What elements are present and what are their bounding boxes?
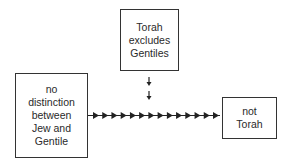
arrowhead-icon	[213, 112, 219, 119]
arrowhead-icon	[167, 112, 173, 119]
arrowhead-icon	[121, 112, 127, 119]
arrowhead-icon	[195, 112, 201, 119]
chain-arrow-left-to-right	[88, 112, 220, 119]
arrowhead-icon	[204, 112, 210, 119]
down-arrows-from-top	[147, 77, 152, 100]
arrowhead-icon	[139, 112, 145, 119]
edges-layer	[0, 0, 291, 166]
arrowhead-icon	[185, 112, 191, 119]
arrowhead-icon	[111, 112, 117, 119]
arrowhead-icon	[158, 112, 164, 119]
arrowhead-icon	[176, 112, 182, 119]
down-arrow-icon	[147, 91, 152, 100]
arrowhead-icon	[93, 112, 99, 119]
down-arrow-icon	[147, 77, 152, 86]
arrowhead-icon	[102, 112, 108, 119]
arrowhead-icon	[130, 112, 136, 119]
arrowhead-icon	[148, 112, 154, 119]
